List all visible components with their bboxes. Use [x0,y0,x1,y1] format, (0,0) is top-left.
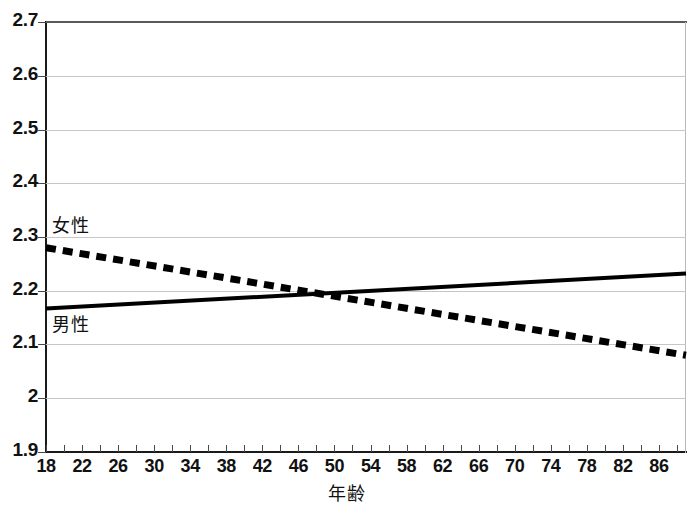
gridline [46,398,686,399]
x-tick-mark [659,445,660,452]
x-tick-mark [172,445,173,452]
x-tick-mark [479,445,480,452]
x-tick-mark [280,445,281,452]
y-tick-mark [38,130,46,131]
x-tick-label: 58 [387,456,427,477]
x-tick-mark [262,445,263,452]
x-tick-mark [136,445,137,452]
x-tick-label: 86 [639,456,679,477]
x-tick-mark [208,445,209,452]
line-chart: 2.72.62.52.42.32.22.121.9 18222630343842… [0,0,694,505]
y-tick-mark [38,291,46,292]
x-tick-label: 30 [134,456,174,477]
x-tick-label: 54 [351,456,391,477]
y-tick-label: 2.4 [0,170,38,192]
gridline [46,237,686,238]
x-tick-label: 78 [567,456,607,477]
x-tick-mark [407,445,408,452]
y-tick-label: 2.7 [0,9,38,31]
gridline [46,291,686,292]
x-tick-mark [244,445,245,452]
x-tick-mark [677,445,678,452]
x-tick-mark [551,445,552,452]
x-tick-mark [118,445,119,452]
x-tick-label: 62 [423,456,463,477]
x-tick-label: 70 [495,456,535,477]
y-tick-mark [38,237,46,238]
y-tick-mark [38,452,46,453]
x-tick-label: 34 [170,456,210,477]
x-tick-mark [515,445,516,452]
x-tick-mark [226,445,227,452]
series-label-female: 女性 [52,211,90,237]
x-tick-mark [298,445,299,452]
x-tick-label: 74 [531,456,571,477]
x-tick-mark [425,445,426,452]
x-tick-label: 26 [98,456,138,477]
x-tick-mark [587,445,588,452]
x-tick-mark [443,445,444,452]
gridline [46,183,686,184]
x-tick-mark [569,445,570,452]
x-tick-mark [316,445,317,452]
x-tick-mark [371,445,372,452]
plot-border-top [46,21,687,23]
y-tick-label: 2.3 [0,224,38,246]
x-tick-mark [641,445,642,452]
y-tick-label: 2.2 [0,278,38,300]
x-tick-mark [352,445,353,452]
x-tick-mark [82,445,83,452]
gridline [46,344,686,345]
y-tick-mark [38,183,46,184]
gridline [46,130,686,131]
x-tick-label: 22 [62,456,102,477]
y-tick-mark [38,398,46,399]
x-tick-mark [497,445,498,452]
series-line-female [46,248,686,356]
x-tick-mark [64,445,65,452]
y-tick-label: 2.5 [0,117,38,139]
x-tick-mark [100,445,101,452]
x-tick-mark [461,445,462,452]
x-tick-label: 18 [26,456,66,477]
y-tick-label: 2 [0,385,38,407]
gridline [46,76,686,77]
y-tick-mark [38,22,46,23]
x-tick-mark [154,445,155,452]
x-axis-title: 年齢 [0,479,694,505]
series-label-male: 男性 [52,310,90,336]
x-tick-label: 66 [459,456,499,477]
x-axis-line [45,451,687,453]
x-tick-mark [605,445,606,452]
x-tick-mark [389,445,390,452]
x-tick-mark [623,445,624,452]
x-tick-mark [533,445,534,452]
y-tick-mark [38,76,46,77]
x-tick-label: 42 [242,456,282,477]
x-tick-label: 82 [603,456,643,477]
x-tick-label: 46 [278,456,318,477]
y-tick-label: 2.6 [0,63,38,85]
x-tick-mark [190,445,191,452]
x-tick-mark [334,445,335,452]
x-tick-label: 50 [314,456,354,477]
y-tick-mark [38,344,46,345]
x-tick-mark [46,445,47,452]
x-tick-label: 38 [206,456,246,477]
y-tick-label: 2.1 [0,331,38,353]
